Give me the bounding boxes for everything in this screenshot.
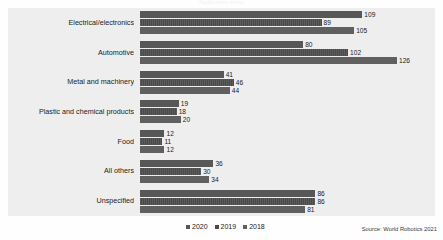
bar-value-label: 12 <box>166 145 173 154</box>
category-label: Electrical/electronics <box>8 18 134 27</box>
category-label: Unspecified <box>8 196 134 205</box>
bar-value-label: 36 <box>215 159 222 168</box>
bar-value-label: 109 <box>364 10 375 19</box>
bar-2018-6 <box>140 206 305 213</box>
bar-group-item: 80 <box>140 41 435 48</box>
category-label: Food <box>8 137 134 146</box>
category-bars: 363034 <box>140 157 435 187</box>
category-bars: 80102126 <box>140 38 435 68</box>
bar-2020-0 <box>140 11 362 18</box>
bar-value-label: 34 <box>211 175 218 184</box>
bar-group-item: 34 <box>140 176 435 183</box>
bar-chart: Application areas Electrical/electronics… <box>0 0 443 240</box>
category-bars: 191820 <box>140 97 435 127</box>
legend-label: 2020 <box>192 222 208 231</box>
bar-value-label: 41 <box>226 70 233 79</box>
bar-value-label: 44 <box>232 86 239 95</box>
bar-group-item: 46 <box>140 79 435 86</box>
bar-group-item: 11 <box>140 138 435 145</box>
bar-2019-4 <box>140 138 162 145</box>
category-label: All others <box>8 166 134 175</box>
bar-2018-4 <box>140 146 164 153</box>
bar-2019-6 <box>140 198 315 205</box>
bar-group-item: 30 <box>140 168 435 175</box>
chart-category-row: Plastic and chemical products191820 <box>8 97 435 127</box>
bar-group-item: 109 <box>140 11 435 18</box>
legend-label: 2019 <box>221 222 237 231</box>
legend-swatch-icon <box>186 225 190 229</box>
bar-group-item: 86 <box>140 190 435 197</box>
bar-2019-5 <box>140 168 201 175</box>
bar-value-label: 80 <box>305 40 312 49</box>
legend-swatch-icon <box>215 225 219 229</box>
category-bars: 414644 <box>140 67 435 97</box>
bar-value-label: 102 <box>350 48 361 57</box>
bar-2020-6 <box>140 190 315 197</box>
bar-group-item: 126 <box>140 57 435 64</box>
bar-2020-4 <box>140 130 164 137</box>
category-label: Automotive <box>8 48 134 57</box>
bar-2019-2 <box>140 79 234 86</box>
category-label: Metal and machinery <box>8 77 134 86</box>
bar-2019-3 <box>140 108 177 115</box>
bar-value-label: 20 <box>183 115 190 124</box>
chart-category-row: Metal and machinery414644 <box>8 67 435 97</box>
legend-swatch-icon <box>243 225 247 229</box>
bar-group-item: 44 <box>140 87 435 94</box>
bar-2018-5 <box>140 176 209 183</box>
bar-group-item: 105 <box>140 27 435 34</box>
bar-value-label: 30 <box>203 167 210 176</box>
chart-category-row: Electrical/electronics10989105 <box>8 8 435 38</box>
bar-value-label: 86 <box>317 197 324 206</box>
bar-group-item: 18 <box>140 108 435 115</box>
category-bars: 10989105 <box>140 8 435 38</box>
bar-value-label: 89 <box>324 18 331 27</box>
bar-group-item: 102 <box>140 49 435 56</box>
bar-2020-2 <box>140 71 224 78</box>
bar-group-item: 41 <box>140 71 435 78</box>
bar-2020-5 <box>140 160 213 167</box>
category-label: Plastic and chemical products <box>8 107 134 116</box>
bar-group-item: 19 <box>140 100 435 107</box>
bar-group-item: 89 <box>140 19 435 26</box>
legend-item-2020[interactable]: 2020 <box>186 222 208 231</box>
source-note: Source: World Robotics 2021 <box>362 225 437 233</box>
bar-2018-1 <box>140 57 397 64</box>
bar-group-item: 12 <box>140 146 435 153</box>
plot-area: Electrical/electronics10989105Automotive… <box>8 8 435 216</box>
chart-category-row: All others363034 <box>8 157 435 187</box>
legend-item-2018[interactable]: 2018 <box>243 222 265 231</box>
bar-group-item: 86 <box>140 198 435 205</box>
legend-item-2019[interactable]: 2019 <box>215 222 237 231</box>
bar-group-item: 20 <box>140 116 435 123</box>
bar-2019-1 <box>140 49 348 56</box>
bar-group-item: 12 <box>140 130 435 137</box>
bar-2018-0 <box>140 27 354 34</box>
bar-value-label: 105 <box>356 26 367 35</box>
chart-title: Application areas <box>0 0 443 6</box>
bar-2019-0 <box>140 19 322 26</box>
bar-group-item: 81 <box>140 206 435 213</box>
bar-value-label: 126 <box>399 56 410 65</box>
legend-label: 2018 <box>249 222 265 231</box>
bar-group-item: 36 <box>140 160 435 167</box>
category-bars: 868681 <box>140 186 435 216</box>
chart-category-row: Food121112 <box>8 127 435 157</box>
category-bars: 121112 <box>140 127 435 157</box>
bar-2018-3 <box>140 116 181 123</box>
bar-2020-3 <box>140 100 179 107</box>
bar-2018-2 <box>140 87 230 94</box>
chart-category-row: Automotive80102126 <box>8 38 435 68</box>
bar-value-label: 81 <box>307 205 314 214</box>
chart-category-row: Unspecified868681 <box>8 186 435 216</box>
bar-2020-1 <box>140 41 303 48</box>
